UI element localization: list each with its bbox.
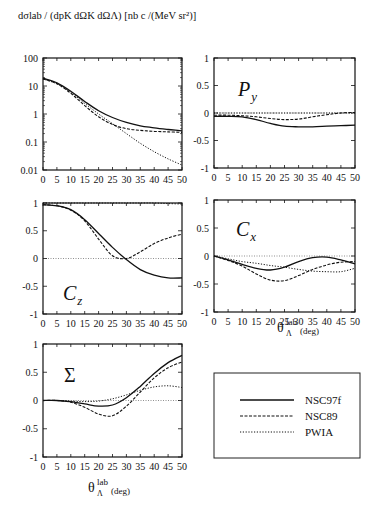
panel-py: 05101520253035404550-1-0.500.51Py [193,53,360,184]
y-tick-label: -0.5 [193,279,209,290]
x-tick-label: 15 [80,318,90,329]
x-tick-label: 10 [237,316,247,327]
x-tick-label: 30 [294,172,304,183]
x-tick-label: 15 [251,172,261,183]
legend-entry-nsc97f: NSC97f [240,394,341,406]
theta-unit: (deg) [111,486,130,496]
legend: NSC97f NSC89 PWIA [214,373,360,458]
x-tick-label: 20 [94,461,104,472]
y-tick-label: 1 [33,198,38,209]
series-pwia [43,79,182,165]
y-tick-label: 10 [28,81,38,92]
x-tick-label: 50 [177,174,187,185]
y-tick-label: 1 [204,53,209,64]
x-tick-label: 35 [135,318,145,329]
plot-canvas: 051015202530354045500.010.1110100 051015… [0,0,376,523]
series-nsc97f [214,116,355,127]
x-axis-title-left: θ lab Λ (deg) [88,477,130,498]
svg-text:NSC97f: NSC97f [305,394,341,406]
x-tick-label: 25 [108,318,118,329]
y-tick-label: -0.5 [193,135,209,146]
y-tick-label: 0.5 [197,223,210,234]
y-tick-label: 0 [204,251,209,262]
x-tick-label: 50 [177,461,187,472]
x-tick-label: 45 [163,461,173,472]
x-tick-label: 10 [66,461,76,472]
figure: dσlab / (dpK dΩK dΩΛ) [nb c /(MeV sr²)] … [0,0,376,523]
theta-subscript: Λ [97,489,103,498]
x-tick-label: 10 [66,174,76,185]
x-tick-label: 40 [149,318,159,329]
theta-subscript: Λ [286,329,292,338]
x-tick-label: 10 [237,172,247,183]
y-tick-label: 0 [33,253,38,264]
y-tick-label: 1 [33,339,38,350]
x-tick-label: 0 [212,316,217,327]
y-tick-label: 1 [33,109,38,120]
x-tick-label: 45 [163,318,173,329]
theta-symbol: θ [88,480,95,495]
x-tick-label: 40 [322,172,332,183]
x-tick-label: 0 [41,461,46,472]
x-tick-label: 50 [177,318,187,329]
theta-superscript: lab [286,317,297,327]
x-tick-label: 15 [251,316,261,327]
series-nsc97f [43,205,182,278]
x-tick-label: 35 [135,461,145,472]
x-tick-label: 0 [41,174,46,185]
panel-label: Py [237,78,257,104]
series-nsc89 [214,256,355,281]
theta-symbol: θ [277,320,284,335]
x-tick-label: 45 [336,316,346,327]
x-tick-label: 40 [322,316,332,327]
series-nsc89 [43,205,182,259]
x-tick-label: 30 [121,318,131,329]
legend-entry-nsc89: NSC89 [240,410,338,422]
x-tick-label: 40 [149,174,159,185]
x-tick-label: 0 [212,172,217,183]
x-tick-label: 20 [94,318,104,329]
y-tick-label: 0.5 [26,367,39,378]
y-tick-label: -1 [201,307,209,318]
panel-cz: 05101520253035404550-1-0.500.51Cz [22,198,187,330]
theta-unit: (deg) [300,326,319,336]
series-pwia [43,386,182,402]
x-tick-label: 5 [226,172,231,183]
x-tick-label: 20 [265,172,275,183]
x-tick-label: 50 [350,316,360,327]
y-tick-label: 0.5 [197,80,210,91]
y-tick-label: 0.01 [21,165,39,176]
svg-text:PWIA: PWIA [305,426,333,438]
x-tick-label: 5 [54,174,59,185]
x-tick-label: 40 [149,461,159,472]
panel-sigma: 05101520253035404550-1-0.500.51Σ [22,339,187,473]
x-tick-label: 20 [265,316,275,327]
y-tick-label: -0.5 [22,423,38,434]
panel-label: Σ [64,364,76,386]
plot-frame [43,58,182,170]
theta-superscript: lab [97,477,108,487]
x-tick-label: 45 [336,172,346,183]
cross-section-axis-title: dσlab / (dpK dΩK dΩΛ) [nb c /(MeV sr²)] [18,10,196,21]
panel-label: Cx [236,218,256,244]
x-tick-label: 15 [80,174,90,185]
y-tick-label: 0 [33,395,38,406]
legend-entry-pwia: PWIA [240,426,333,438]
series-nsc97f [43,78,182,131]
y-tick-label: -1 [201,163,209,174]
x-tick-label: 15 [80,461,90,472]
x-tick-label: 30 [121,174,131,185]
y-tick-label: -0.5 [22,281,38,292]
x-tick-label: 20 [94,174,104,185]
svg-text:NSC89: NSC89 [305,410,338,422]
x-tick-label: 5 [54,318,59,329]
panel-cx: 05101520253035404550-1-0.500.51Cx [193,195,360,328]
x-tick-label: 25 [280,172,290,183]
x-tick-label: 0 [41,318,46,329]
panel-cross-section: 051015202530354045500.010.1110100 [21,53,188,186]
y-tick-label: 100 [23,53,38,64]
x-tick-label: 35 [308,172,318,183]
x-tick-label: 30 [121,461,131,472]
y-tick-label: 0 [204,108,209,119]
y-tick-label: 0.1 [26,137,39,148]
